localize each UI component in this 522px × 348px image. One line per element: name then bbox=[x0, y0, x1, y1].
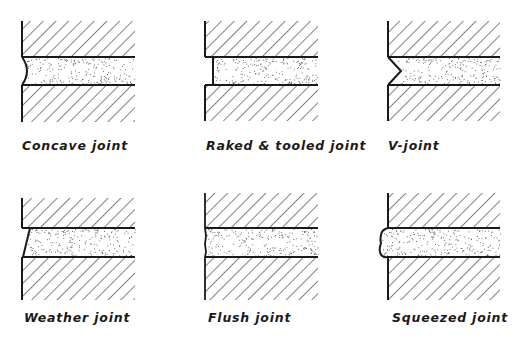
mortar-dot bbox=[494, 67, 495, 68]
mortar-dot bbox=[443, 67, 444, 68]
mortar-dot bbox=[304, 58, 305, 59]
mortar-dot bbox=[94, 82, 95, 83]
mortar-dot bbox=[209, 247, 210, 248]
mortar-dot bbox=[232, 80, 233, 81]
mortar-dot bbox=[457, 248, 458, 249]
concave-profile bbox=[22, 57, 27, 85]
mortar-dot bbox=[116, 60, 117, 61]
mortar-fill bbox=[214, 58, 318, 85]
mortar-dot bbox=[496, 252, 497, 253]
mortar-dot bbox=[31, 250, 32, 251]
mortar-dot bbox=[463, 65, 464, 66]
mortar-dot bbox=[252, 244, 253, 245]
label-v-joint: V-joint bbox=[388, 138, 440, 153]
mortar-dot bbox=[279, 232, 280, 233]
mortar-dot bbox=[36, 229, 37, 230]
brick-lower bbox=[388, 85, 500, 121]
mortar-dot bbox=[65, 252, 66, 253]
mortar-dot bbox=[462, 252, 463, 253]
mortar-dot bbox=[35, 74, 36, 75]
panel-squeezed-joint: Squeezed joint bbox=[380, 193, 509, 325]
mortar-dot bbox=[270, 63, 271, 64]
mortar-dot bbox=[296, 76, 297, 77]
mortar-dot bbox=[316, 79, 317, 80]
panel-v-joint: V-joint bbox=[388, 21, 501, 153]
mortar-dot bbox=[482, 66, 483, 67]
mortar-dot bbox=[243, 80, 244, 81]
mortar-dot bbox=[384, 233, 385, 234]
mortar-dot bbox=[276, 72, 277, 73]
mortar-dot bbox=[71, 237, 72, 238]
mortar-dot bbox=[58, 69, 59, 70]
mortar-dot bbox=[437, 63, 438, 64]
mortar-dot bbox=[130, 82, 131, 83]
mortar-dot bbox=[308, 69, 309, 70]
mortar-dot bbox=[36, 254, 37, 255]
mortar-dot bbox=[399, 241, 400, 242]
mortar-dot bbox=[489, 79, 490, 80]
mortar-dot bbox=[71, 73, 72, 74]
mortar-dot bbox=[302, 63, 303, 64]
mortar-dot bbox=[218, 246, 219, 247]
mortar-dot bbox=[92, 59, 93, 60]
mortar-dot bbox=[293, 252, 294, 253]
mortar-dot bbox=[95, 236, 96, 237]
mortar-dot bbox=[481, 252, 482, 253]
mortar-dot bbox=[404, 252, 405, 253]
mortar-dot bbox=[307, 76, 308, 77]
mortar-dot bbox=[461, 81, 462, 82]
mortar-dot bbox=[278, 233, 279, 234]
mortar-dot bbox=[104, 76, 105, 77]
mortar-dot bbox=[244, 75, 245, 76]
mortar-dot bbox=[425, 62, 426, 63]
mortar-dot bbox=[221, 59, 222, 60]
mortar-dot bbox=[313, 75, 314, 76]
mortar-dot bbox=[72, 83, 73, 84]
mortar-dot bbox=[489, 60, 490, 61]
mortar-dot bbox=[235, 62, 236, 63]
mortar-dot bbox=[73, 63, 74, 64]
mortar-dot bbox=[310, 253, 311, 254]
mortar-dot bbox=[216, 235, 217, 236]
mortar-dot bbox=[219, 63, 220, 64]
mortar-dot bbox=[74, 235, 75, 236]
mortar-dot bbox=[94, 76, 95, 77]
mortar-dot bbox=[273, 250, 274, 251]
mortar-dot bbox=[387, 252, 388, 253]
mortar-dot bbox=[79, 245, 80, 246]
mortar-dot bbox=[499, 230, 500, 231]
mortar-dot bbox=[455, 230, 456, 231]
mortar-dot bbox=[45, 232, 46, 233]
mortar-dot bbox=[407, 79, 408, 80]
mortar-dot bbox=[115, 229, 116, 230]
brick-upper bbox=[388, 193, 500, 228]
mortar-dot bbox=[254, 64, 255, 65]
mortar-dot bbox=[428, 60, 429, 61]
mortar-dot bbox=[36, 230, 37, 231]
mortar-dot bbox=[47, 69, 48, 70]
mortar-dot bbox=[441, 254, 442, 255]
mortar-dot bbox=[298, 249, 299, 250]
mortar-dot bbox=[418, 78, 419, 79]
mortar-dot bbox=[42, 245, 43, 246]
mortar-dot bbox=[58, 63, 59, 64]
mortar-dot bbox=[266, 61, 267, 62]
mortar-dot bbox=[90, 74, 91, 75]
mortar-dot bbox=[485, 61, 486, 62]
mortar-dot bbox=[268, 77, 269, 78]
mortar-dot bbox=[278, 80, 279, 81]
mortar-dot bbox=[470, 251, 471, 252]
mortar-dot bbox=[233, 59, 234, 60]
mortar-dot bbox=[106, 78, 107, 79]
mortar-dot bbox=[211, 241, 212, 242]
mortar-dot bbox=[286, 247, 287, 248]
mortar-dot bbox=[482, 83, 483, 84]
mortar-dot bbox=[451, 74, 452, 75]
mortar-dot bbox=[409, 78, 410, 79]
mortar-dot bbox=[224, 252, 225, 253]
mortar-dot bbox=[102, 62, 103, 63]
mortar-dot bbox=[444, 240, 445, 241]
mortar-dot bbox=[90, 239, 91, 240]
mortar-dot bbox=[30, 65, 31, 66]
mortar-dot bbox=[83, 60, 84, 61]
